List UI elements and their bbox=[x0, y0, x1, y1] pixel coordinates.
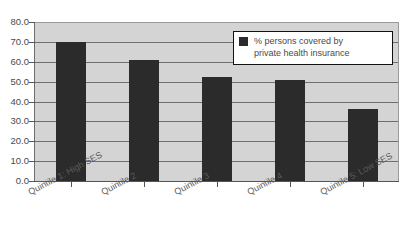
chart-legend: % persons covered by private health insu… bbox=[233, 31, 393, 65]
legend-label-line1: % persons covered by bbox=[254, 36, 343, 46]
y-axis-label: 10.0 bbox=[11, 156, 30, 166]
plot-frame-top bbox=[34, 22, 399, 23]
legend-label: % persons covered by private health insu… bbox=[254, 36, 350, 59]
bar bbox=[129, 60, 159, 181]
bar bbox=[202, 77, 232, 181]
y-axis-tick bbox=[29, 121, 35, 122]
y-axis-tick bbox=[29, 141, 35, 142]
y-axis-tick bbox=[29, 102, 35, 103]
y-axis-label: 50.0 bbox=[11, 77, 30, 87]
y-axis-label: 60.0 bbox=[11, 57, 30, 67]
y-axis-label: 20.0 bbox=[11, 136, 30, 146]
bar-chart: insurance 80.070.060.050.040.030.020.010… bbox=[0, 0, 403, 246]
y-axis-tick bbox=[29, 161, 35, 162]
x-axis-tick bbox=[71, 182, 72, 187]
y-axis-label: 40.0 bbox=[11, 97, 30, 107]
x-axis-tick bbox=[144, 182, 145, 187]
y-axis-label: 70.0 bbox=[11, 37, 30, 47]
x-axis-tick bbox=[290, 182, 291, 187]
legend-label-line2: private health insurance bbox=[254, 48, 350, 58]
legend-swatch-icon bbox=[239, 37, 248, 46]
y-axis-tick bbox=[29, 62, 35, 63]
chart-title: insurance bbox=[0, 0, 403, 2]
x-axis-tick bbox=[363, 182, 364, 187]
plot-frame-right bbox=[398, 22, 399, 182]
y-axis-tick bbox=[29, 42, 35, 43]
bar bbox=[275, 80, 305, 181]
x-axis-tick bbox=[217, 182, 218, 187]
y-axis-tick bbox=[29, 22, 35, 23]
y-axis-label: 0.0 bbox=[16, 176, 29, 186]
y-axis-label: 80.0 bbox=[11, 17, 30, 27]
y-axis-tick bbox=[29, 82, 35, 83]
y-axis-label: 30.0 bbox=[11, 116, 30, 126]
